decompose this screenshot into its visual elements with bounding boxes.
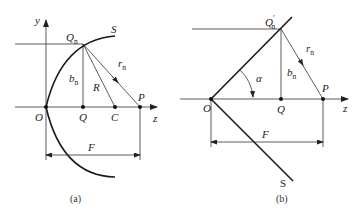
point-o-b — [209, 97, 213, 101]
label-qn-prime-b: Q′n — [265, 14, 276, 31]
label-s-a: S — [111, 23, 117, 35]
panel-b: Q′n rn α bn P O Q z F S (b) — [180, 14, 348, 205]
rn-line-a — [83, 44, 140, 107]
label-z-b: z — [342, 102, 348, 114]
label-bn-a: bn — [69, 72, 79, 87]
label-p-b: P — [321, 82, 329, 94]
surface-arc-s-a — [46, 36, 115, 177]
label-o-a: O — [35, 111, 43, 123]
point-c-a — [113, 105, 117, 109]
label-f-b: F — [261, 128, 269, 140]
label-alpha-b: α — [256, 72, 262, 84]
label-bn-b: bn — [287, 66, 297, 81]
label-p-a: P — [137, 91, 145, 103]
label-c-a: C — [111, 111, 119, 123]
label-rn-a: rn — [118, 57, 126, 72]
label-y-a: y — [34, 14, 40, 26]
point-q-a — [81, 105, 85, 109]
caption-a: (a) — [70, 193, 81, 205]
label-r-a: R — [92, 81, 100, 93]
point-p-b — [321, 97, 325, 101]
label-q-a: Q — [79, 111, 87, 123]
label-z-a: z — [152, 112, 158, 124]
radius-line-a — [83, 44, 115, 107]
alpha-arc-b — [240, 70, 253, 97]
label-q-b: Q — [277, 103, 285, 115]
point-p-a — [138, 105, 142, 109]
caption-b: (b) — [276, 193, 288, 205]
label-s-b: S — [280, 177, 286, 189]
point-q-b — [279, 97, 283, 101]
label-o-b: O — [203, 102, 211, 114]
rn-arrow-b — [299, 59, 303, 66]
rn-arrow-a — [112, 76, 118, 83]
point-o-a — [44, 105, 48, 109]
label-f-a: F — [87, 141, 95, 153]
diagram-canvas: y z Qn S rn bn R P O Q C F (a) — [0, 0, 361, 217]
label-rn-b: rn — [306, 42, 314, 57]
panel-a: y z Qn S rn bn R P O Q C F (a) — [15, 14, 158, 205]
